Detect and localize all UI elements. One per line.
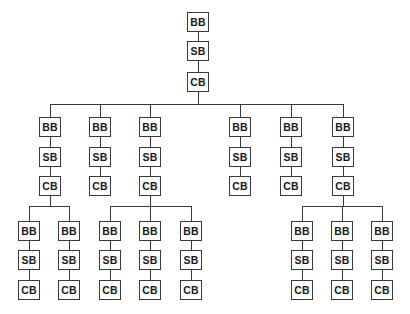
connector-line — [191, 241, 192, 250]
connector-line — [100, 104, 101, 117]
branch-line — [110, 206, 192, 207]
node-cb: CB — [89, 176, 111, 196]
node-bb: BB — [58, 221, 80, 241]
node-cb: CB — [139, 280, 161, 300]
connector-line — [291, 167, 292, 176]
connector-line — [29, 206, 30, 221]
connector-line — [198, 32, 199, 41]
node-sb: SB — [18, 250, 40, 270]
node-sb: SB — [187, 41, 209, 61]
node-bb: BB — [291, 221, 313, 241]
node-sb: SB — [229, 147, 251, 167]
node-cb: CB — [18, 280, 40, 300]
node-cb: CB — [331, 280, 353, 300]
node-cb: CB — [291, 280, 313, 300]
connector-line — [50, 137, 51, 147]
node-cb: CB — [180, 280, 202, 300]
branch-line — [29, 206, 70, 207]
node-sb: SB — [331, 250, 353, 270]
connector-line — [150, 167, 151, 176]
connector-line — [50, 196, 51, 206]
node-cb: CB — [187, 72, 209, 92]
branch-line — [50, 104, 344, 105]
connector-line — [150, 241, 151, 250]
connector-line — [150, 137, 151, 147]
connector-line — [342, 206, 343, 221]
node-bb: BB — [18, 221, 40, 241]
connector-line — [198, 61, 199, 72]
node-bb: BB — [39, 117, 61, 137]
connector-line — [343, 196, 344, 206]
connector-line — [191, 270, 192, 280]
node-cb: CB — [139, 176, 161, 196]
connector-line — [291, 137, 292, 147]
connector-line — [150, 104, 151, 117]
node-sb: SB — [332, 147, 354, 167]
connector-line — [110, 206, 111, 221]
connector-line — [69, 270, 70, 280]
node-bb: BB — [280, 117, 302, 137]
node-sb: SB — [180, 250, 202, 270]
connector-line — [240, 137, 241, 147]
connector-line — [29, 241, 30, 250]
connector-line — [150, 270, 151, 280]
node-cb: CB — [332, 176, 354, 196]
connector-line — [291, 104, 292, 117]
node-sb: SB — [139, 250, 161, 270]
connector-line — [240, 167, 241, 176]
connector-line — [302, 241, 303, 250]
connector-line — [343, 104, 344, 117]
node-bb: BB — [139, 221, 161, 241]
node-bb: BB — [229, 117, 251, 137]
node-bb: BB — [139, 117, 161, 137]
node-bb: BB — [89, 117, 111, 137]
connector-line — [302, 206, 303, 221]
node-bb: BB — [180, 221, 202, 241]
connector-line — [110, 241, 111, 250]
node-sb: SB — [99, 250, 121, 270]
connector-line — [29, 270, 30, 280]
connector-line — [150, 196, 151, 206]
connector-line — [110, 270, 111, 280]
connector-line — [69, 241, 70, 250]
connector-line — [100, 167, 101, 176]
node-bb: BB — [99, 221, 121, 241]
node-sb: SB — [39, 147, 61, 167]
node-sb: SB — [58, 250, 80, 270]
connector-line — [240, 104, 241, 117]
connector-line — [191, 206, 192, 221]
connector-line — [50, 104, 51, 117]
node-sb: SB — [280, 147, 302, 167]
node-cb: CB — [39, 176, 61, 196]
node-bb: BB — [371, 221, 393, 241]
connector-line — [343, 137, 344, 147]
node-sb: SB — [89, 147, 111, 167]
connector-line — [100, 137, 101, 147]
node-cb: CB — [280, 176, 302, 196]
connector-line — [382, 241, 383, 250]
node-bb: BB — [187, 12, 209, 32]
connector-line — [342, 270, 343, 280]
node-cb: CB — [58, 280, 80, 300]
connector-line — [342, 241, 343, 250]
connector-line — [69, 206, 70, 221]
node-sb: SB — [291, 250, 313, 270]
node-bb: BB — [332, 117, 354, 137]
connector-line — [198, 92, 199, 104]
connector-line — [150, 206, 151, 221]
node-sb: SB — [371, 250, 393, 270]
connector-line — [382, 206, 383, 221]
node-cb: CB — [99, 280, 121, 300]
connector-line — [50, 167, 51, 176]
node-bb: BB — [331, 221, 353, 241]
connector-line — [343, 167, 344, 176]
node-sb: SB — [139, 147, 161, 167]
node-cb: CB — [371, 280, 393, 300]
tree-diagram: BBSBCBBBSBCBBBSBCBBBSBCBBBSBCBBBSBCBBBSB… — [0, 0, 410, 314]
node-cb: CB — [229, 176, 251, 196]
connector-line — [382, 270, 383, 280]
connector-line — [302, 270, 303, 280]
